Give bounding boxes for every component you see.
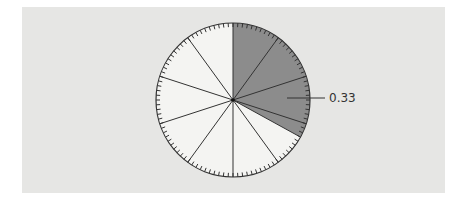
tick-mark: [305, 109, 309, 110]
center-dot: [231, 98, 235, 102]
pie-chart: 0.33: [0, 0, 466, 207]
value-label: 0.33: [329, 91, 356, 105]
tick-mark: [305, 90, 309, 91]
